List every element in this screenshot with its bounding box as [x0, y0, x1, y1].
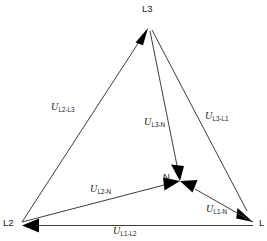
edge-label-u-l3-l1-subscript: L3-L1 [213, 115, 229, 122]
edge-label-u-l2-l3-subscript: L2-L3 [59, 106, 75, 113]
edge-u-l2-l3-line [22, 37, 143, 223]
phasor-diagram: L3 L2 L N UL2-L3 UL3-L1 UL1-L2 UL3-N [0, 0, 267, 241]
phasor-diagram-canvas: L3 L2 L N UL2-L3 UL3-L1 UL1-L2 UL3-N [0, 0, 267, 241]
edge-label-u-l3-n-subscript: L3-N [152, 121, 166, 128]
node-label-n: N [163, 171, 170, 182]
edge-label-u-l1-l2: UL1-L2 [113, 225, 137, 237]
edge-label-u-l1-l2-subscript: L1-L2 [121, 230, 137, 237]
edge-label-u-l1-n: UL1-N [206, 203, 227, 215]
svg-text:UL2-L3: UL2-L3 [51, 101, 75, 113]
edge-label-u-l3-l1: UL3-L1 [205, 110, 229, 122]
edge-u-l2-l3 [22, 28, 148, 222]
edge-label-u-l1-n-subscript: L1-N [214, 208, 228, 215]
edge-u-l2-n [22, 178, 180, 223]
edge-label-u-l2-n-subscript: L2-N [98, 188, 112, 195]
node-label-l2: L2 [3, 217, 14, 228]
edge-u-l3-n-arrowhead [171, 165, 184, 182]
edge-u-l3-l1-arrowhead [236, 208, 253, 222]
svg-text:UL3-L1: UL3-L1 [205, 110, 229, 122]
edge-u-l2-l3-arrowhead [136, 28, 149, 45]
edge-u-l1-l2 [22, 219, 253, 233]
svg-text:UL3-N: UL3-N [144, 116, 165, 128]
edge-u-l3-n [150, 31, 184, 181]
edge-label-u-l2-n: UL2-N [90, 183, 111, 195]
edge-label-u-l3-n: UL3-N [144, 116, 165, 128]
svg-text:UL1-N: UL1-N [206, 203, 227, 215]
edge-u-l1-n-arrowhead [180, 180, 198, 193]
svg-text:UL1-L2: UL1-L2 [113, 225, 137, 237]
edge-label-u-l2-l3: UL2-L3 [51, 101, 75, 113]
svg-text:UL2-N: UL2-N [90, 183, 111, 195]
edge-u-l1-l2-arrowhead [22, 219, 39, 233]
node-label-l3: L3 [142, 3, 153, 14]
node-label-l1: L [259, 217, 264, 228]
